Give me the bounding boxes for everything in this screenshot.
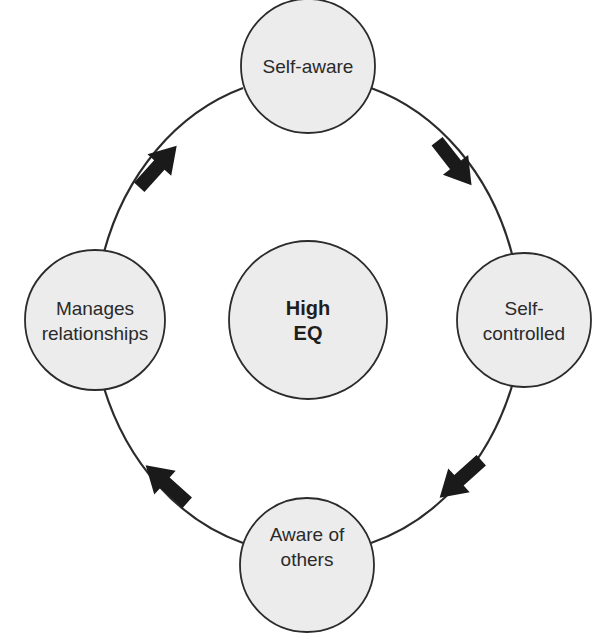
node-self-aware: Self-aware: [241, 0, 375, 133]
ring-segment-top-right: [371, 88, 512, 254]
ring-segment-bottom-left: [104, 388, 243, 543]
node-label: Self-: [504, 298, 543, 319]
node-label: Aware of: [270, 524, 345, 545]
arrow-icon: [127, 135, 188, 198]
node-label: others: [281, 549, 334, 570]
node-label: controlled: [483, 323, 565, 344]
node-label: Manages: [56, 298, 134, 319]
node-manages-relationships: Manages relationships: [25, 250, 165, 390]
node-circle: [457, 253, 591, 387]
node-circle: [25, 250, 165, 390]
arrow-icon: [429, 448, 492, 509]
node-label: relationships: [42, 323, 149, 344]
node-high-eq: High EQ: [229, 241, 387, 399]
arrow-icon: [424, 131, 484, 195]
node-circle: [229, 241, 387, 399]
eq-cycle-diagram: High EQ Self-aware Self- controlled Awar…: [0, 0, 615, 633]
ring-segment-left-top: [104, 88, 243, 252]
node-label: Self-aware: [263, 56, 354, 77]
node-aware-of-others: Aware of others: [240, 498, 374, 632]
node-self-controlled: Self- controlled: [457, 253, 591, 387]
ring-segment-right-bottom: [371, 386, 512, 543]
node-label: High: [286, 297, 330, 319]
arrow-icon: [135, 453, 198, 514]
node-label: EQ: [294, 322, 323, 344]
